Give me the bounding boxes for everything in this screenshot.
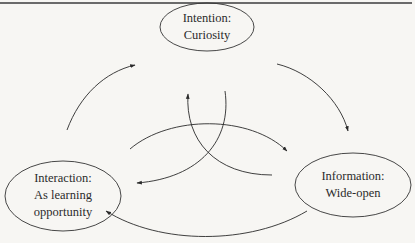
node-interaction-line2: As learning <box>5 187 121 204</box>
arrow-information-to-intention-inner <box>188 94 272 175</box>
node-interaction-line3: opportunity <box>5 204 121 221</box>
arrow-interaction-to-information-inner <box>130 124 287 151</box>
arrow-information-to-interaction <box>106 211 307 237</box>
node-intention-label: Intention: Curiosity <box>160 10 254 44</box>
node-interaction-label: Interaction: As learning opportunity <box>5 170 121 221</box>
arrow-interaction-to-intention <box>67 65 135 130</box>
node-intention-line1: Intention: <box>160 10 254 27</box>
node-information-label: Information: Wide-open <box>295 168 411 202</box>
node-interaction-line1: Interaction: <box>5 170 121 187</box>
node-information-line2: Wide-open <box>295 185 411 202</box>
arrow-intention-to-interaction-inner <box>137 91 226 183</box>
node-information-line1: Information: <box>295 168 411 185</box>
arrow-intention-to-information <box>277 64 348 131</box>
node-intention-line2: Curiosity <box>160 27 254 44</box>
